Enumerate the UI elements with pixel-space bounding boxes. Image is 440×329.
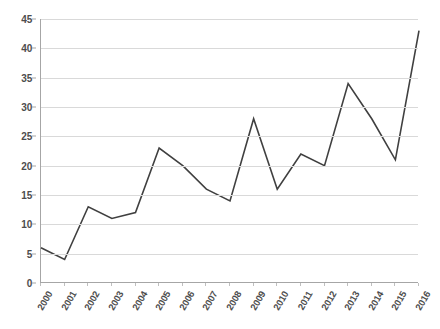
y-tick-label: 20 [21, 160, 32, 171]
y-tick-label: 40 [21, 43, 32, 54]
x-tick-label: 2001 [58, 289, 78, 312]
gridline [41, 48, 418, 49]
x-tick-mark [87, 283, 88, 286]
y-tick-mark [32, 77, 36, 78]
x-tick-mark [158, 283, 159, 286]
y-tick-label: 25 [21, 131, 32, 142]
gridline [41, 136, 418, 137]
x-tick-mark [40, 283, 41, 286]
x-tick-label: 2000 [35, 289, 55, 312]
y-tick-mark [32, 48, 36, 49]
plot-area [40, 19, 418, 283]
x-tick-mark [64, 283, 65, 286]
y-tick-label: 30 [21, 102, 32, 113]
line-chart: 051015202530354045 200020012002200320042… [0, 0, 440, 329]
x-tick-label: 2005 [153, 289, 173, 312]
x-tick-label: 2009 [247, 289, 267, 312]
x-tick-label: 2012 [318, 289, 338, 312]
x-tick-label: 2004 [129, 289, 149, 312]
x-tick-mark [182, 283, 183, 286]
y-tick-mark [32, 253, 36, 254]
x-tick-mark [324, 283, 325, 286]
x-tick-mark [111, 283, 112, 286]
gridline [41, 107, 418, 108]
x-tick-label: 2010 [271, 289, 291, 312]
x-tick-mark [205, 283, 206, 286]
x-tick-mark [229, 283, 230, 286]
y-tick-mark [32, 136, 36, 137]
y-tick-label: 15 [21, 190, 32, 201]
gridline [41, 195, 418, 196]
y-tick-label: 45 [21, 14, 32, 25]
x-tick-mark [371, 283, 372, 286]
x-tick-label: 2015 [389, 289, 409, 312]
x-tick-label: 2002 [82, 289, 102, 312]
x-tick-label: 2011 [295, 289, 314, 312]
y-tick-mark [32, 224, 36, 225]
x-tick-label: 2003 [106, 289, 126, 312]
y-tick-mark [32, 107, 36, 108]
series-line [41, 19, 419, 283]
x-tick-label: 2006 [177, 289, 197, 312]
gridline [41, 224, 418, 225]
y-tick-mark [32, 283, 36, 284]
y-tick-mark [32, 165, 36, 166]
y-tick-label: 35 [21, 72, 32, 83]
x-tick-label: 2016 [413, 289, 433, 312]
x-tick-mark [418, 283, 419, 286]
x-tick-label: 2014 [366, 289, 386, 312]
x-tick-mark [276, 283, 277, 286]
x-tick-mark [300, 283, 301, 286]
gridline [41, 166, 418, 167]
x-tick-label: 2007 [200, 289, 220, 312]
y-tick-label: 10 [21, 219, 32, 230]
y-axis: 051015202530354045 [0, 19, 36, 283]
gridline [41, 254, 418, 255]
y-tick-mark [32, 19, 36, 20]
x-tick-mark [135, 283, 136, 286]
x-tick-mark [347, 283, 348, 286]
x-tick-mark [394, 283, 395, 286]
x-axis: 2000200120022003200420052006200720082009… [40, 283, 418, 329]
x-tick-mark [253, 283, 254, 286]
gridline [41, 78, 418, 79]
gridline [41, 19, 418, 20]
y-tick-mark [32, 195, 36, 196]
x-tick-label: 2008 [224, 289, 244, 312]
x-tick-label: 2013 [342, 289, 362, 312]
